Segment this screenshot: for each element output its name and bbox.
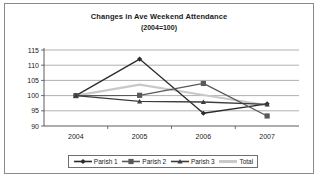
x-axis-tick-label: 2005	[132, 133, 148, 140]
legend-item-label: Parish 2	[142, 158, 166, 165]
legend-item-parish-3[interactable]: Parish 3	[170, 157, 215, 166]
x-axis-tick-label: 2004	[68, 133, 84, 140]
x-axis-tick-label: 2007	[259, 133, 275, 140]
y-axis-tick-label: 115	[28, 47, 39, 54]
y-axis-tick-label: 100	[27, 92, 39, 99]
legend-marker-diamond-icon	[73, 157, 93, 166]
data-point	[137, 93, 142, 98]
legend-marker-triangle-icon	[170, 157, 190, 166]
legend-item-label: Total	[239, 158, 253, 165]
y-axis-tick-label: 105	[27, 77, 39, 84]
series-line	[76, 59, 267, 113]
data-point	[201, 81, 206, 86]
legend-item-total[interactable]: Total	[218, 157, 253, 166]
data-point	[265, 113, 270, 118]
x-axis-tick-label: 2006	[196, 133, 212, 140]
legend-item-parish-2[interactable]: Parish 2	[121, 157, 166, 166]
y-axis-tick-label: 90	[31, 123, 39, 130]
chart-legend: Parish 1Parish 2Parish 3Total	[68, 155, 258, 168]
chart-subtitle: (2004=100)	[5, 22, 313, 33]
legend-item-parish-1[interactable]: Parish 1	[73, 157, 118, 166]
chart-title: Changes in Ave Weekend Attendance	[5, 11, 313, 22]
y-axis-tick-label: 110	[28, 62, 39, 69]
legend-marker-line-icon	[218, 157, 238, 166]
legend-marker-square-icon	[121, 157, 141, 166]
chart-frame: Changes in Ave Weekend Attendance (2004=…	[4, 3, 314, 174]
legend-item-label: Parish 3	[191, 158, 215, 165]
y-axis-tick-label: 95	[31, 107, 39, 114]
line-chart-plot: 90951001051101152004200520062007	[5, 40, 315, 150]
legend-item-label: Parish 1	[94, 158, 118, 165]
chart-title-block: Changes in Ave Weekend Attendance (2004=…	[5, 11, 313, 33]
